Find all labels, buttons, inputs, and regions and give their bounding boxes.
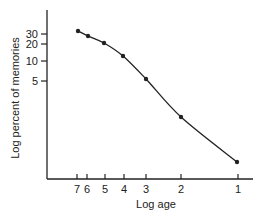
y-tick-label: 5 xyxy=(32,75,38,87)
x-tick-label: 2 xyxy=(178,183,184,195)
y-ticks: 3020105 xyxy=(26,28,47,87)
x-tick-label: 5 xyxy=(102,183,108,195)
data-point xyxy=(76,29,80,33)
y-tick-label: 20 xyxy=(26,38,38,50)
x-axis-label: Log age xyxy=(136,198,176,210)
data-point xyxy=(102,41,106,45)
data-point xyxy=(179,115,183,119)
data-point xyxy=(121,54,125,58)
x-tick-label: 7 xyxy=(74,183,80,195)
data-line xyxy=(78,31,237,162)
y-tick-label: 10 xyxy=(26,55,38,67)
data-point xyxy=(144,77,148,81)
y-axis-label: Log percent of memories xyxy=(9,37,21,159)
data-point xyxy=(235,160,239,164)
plot-area: 3020105 7654321 Log age Log percent of m… xyxy=(0,0,265,222)
x-tick-label: 3 xyxy=(143,183,149,195)
data-point xyxy=(86,34,90,38)
x-ticks: 7654321 xyxy=(74,174,241,195)
chart: 3020105 7654321 Log age Log percent of m… xyxy=(0,0,265,222)
x-tick-label: 6 xyxy=(84,183,90,195)
x-tick-label: 1 xyxy=(235,183,241,195)
x-tick-label: 4 xyxy=(121,183,127,195)
